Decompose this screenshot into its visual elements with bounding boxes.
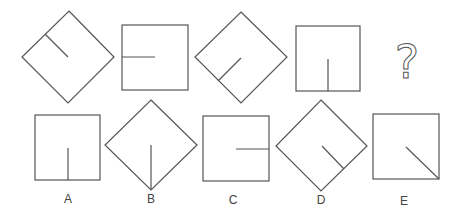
option-c-figure[interactable] (203, 116, 269, 181)
option-c-label[interactable]: C (229, 194, 238, 206)
option-a-label[interactable]: A (64, 193, 72, 205)
option-e-label[interactable]: E (400, 195, 408, 207)
inner-line (406, 147, 439, 179)
puzzle-canvas (0, 0, 461, 217)
sequence-figure-4 (296, 26, 360, 91)
sequence-figure-1 (22, 11, 114, 103)
option-d-label[interactable]: D (317, 194, 326, 206)
sequence-figure-2 (122, 25, 188, 90)
option-d-figure[interactable] (276, 100, 367, 191)
sequence-figure-3 (195, 12, 287, 103)
inner-line (322, 146, 344, 169)
option-b-figure[interactable] (105, 100, 197, 190)
diamond-shape (195, 12, 287, 103)
diamond-shape (276, 100, 367, 191)
option-b-label[interactable]: B (147, 193, 155, 205)
inner-line (45, 34, 68, 57)
option-e-figure[interactable] (373, 114, 439, 179)
inner-line (218, 58, 241, 81)
option-a-figure[interactable] (35, 115, 100, 180)
question-mark-icon: ? (395, 39, 419, 85)
